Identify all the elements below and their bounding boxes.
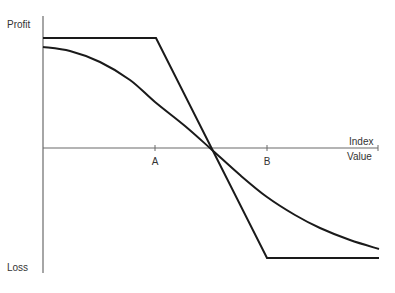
y-label-profit: Profit (7, 19, 31, 30)
x-tick-label: B (264, 156, 271, 167)
x-tick-label: A (152, 156, 159, 167)
payoff-chart: Profit Loss Index Value AB (0, 0, 395, 293)
x-label-index: Index (349, 136, 373, 147)
x-label-value: Value (347, 151, 372, 162)
y-label-loss: Loss (7, 262, 28, 273)
